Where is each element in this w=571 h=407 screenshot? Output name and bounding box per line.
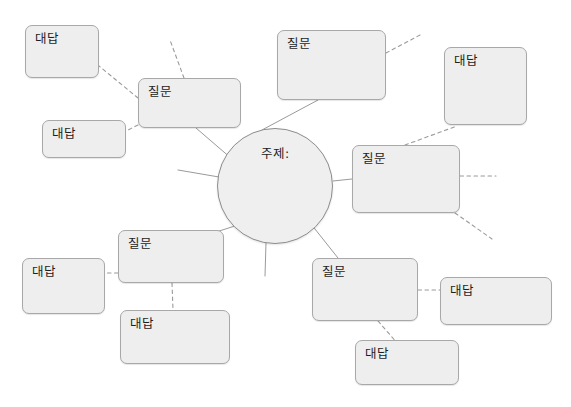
edge-e-center-stub-left: [178, 170, 219, 177]
center-topic-label: 주제:: [218, 146, 332, 161]
edge-e-qright-stub2: [455, 213, 492, 239]
edge-e-qright-atopright: [405, 126, 457, 145]
node-q-right[interactable]: 질문: [352, 145, 460, 213]
edge-e-qtopleft-atl2: [126, 125, 138, 131]
node-label: 질문: [148, 84, 172, 99]
edge-e-qtop-stub: [386, 35, 420, 53]
node-label: 질문: [128, 236, 152, 251]
node-q-topleft[interactable]: 질문: [138, 78, 241, 128]
node-q-bottomright[interactable]: 질문: [312, 258, 418, 321]
edge-e-center-stub-down: [265, 243, 266, 276]
node-a-topleft-1[interactable]: 대답: [25, 25, 99, 78]
edge-e-center-qtop: [262, 100, 318, 130]
edge-e-qtopleft-stub: [170, 40, 184, 78]
edge-e-center-qbotright: [311, 224, 338, 258]
node-a-top-right[interactable]: 대답: [444, 47, 527, 125]
node-a-bottomleft-2[interactable]: 대답: [120, 310, 230, 364]
node-a-bottomright-1[interactable]: 대답: [440, 277, 552, 325]
node-a-bottomleft-1[interactable]: 대답: [22, 258, 105, 314]
node-label: 대답: [365, 346, 389, 361]
node-q-top[interactable]: 질문: [277, 30, 386, 100]
node-q-bottomleft[interactable]: 질문: [118, 230, 224, 283]
node-label: 대답: [450, 283, 474, 298]
edge-e-qbotleft-abl2: [172, 283, 173, 310]
mindmap-canvas: 질문대답대답질문대답질문질문대답대답질문대답대답 주제:: [0, 0, 571, 407]
node-label: 질문: [362, 151, 386, 166]
node-label: 질문: [287, 36, 311, 51]
edge-e-qtopleft-atl1: [99, 66, 138, 98]
node-label: 대답: [130, 316, 154, 331]
center-topic-node[interactable]: 주제:: [217, 128, 333, 244]
node-label: 질문: [322, 264, 346, 279]
node-label: 대답: [32, 264, 56, 279]
node-a-topleft-2[interactable]: 대답: [42, 120, 126, 158]
node-label: 대답: [454, 53, 478, 68]
node-a-bottomright-2[interactable]: 대답: [355, 340, 459, 385]
node-label: 대답: [52, 126, 76, 141]
node-label: 대답: [35, 31, 59, 46]
edge-e-center-qright: [333, 179, 352, 181]
